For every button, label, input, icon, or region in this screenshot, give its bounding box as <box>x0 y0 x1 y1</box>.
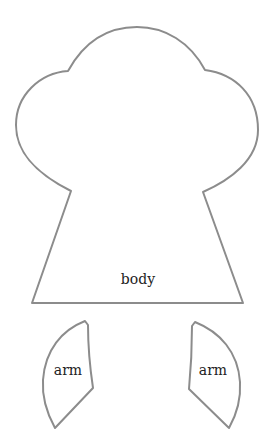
arm-left-piece: arm <box>43 321 93 428</box>
arm-left-label: arm <box>54 362 82 378</box>
body-label: body <box>121 271 155 287</box>
body-piece: body <box>16 27 258 303</box>
body-outline <box>16 27 258 303</box>
pattern-sheet: body arm arm <box>0 0 274 445</box>
arm-right-label: arm <box>199 362 227 378</box>
arm-right-piece: arm <box>189 322 240 428</box>
